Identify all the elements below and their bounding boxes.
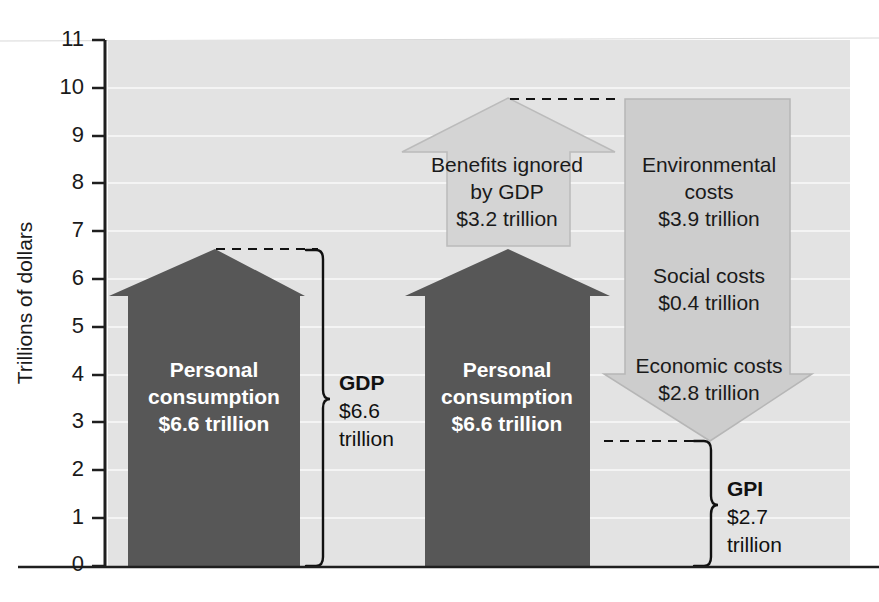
gdp-brace-title: GDP	[339, 371, 385, 394]
environmental-costs-line3: $3.9 trillion	[658, 207, 760, 230]
y-axis-title: Trillions of dollars	[13, 222, 36, 385]
social-costs-line1: Social costs	[653, 264, 765, 287]
y-tick-3: 3	[72, 408, 84, 433]
y-tick-11: 11	[61, 26, 84, 51]
gpi-brace-line1: $2.7	[727, 505, 768, 528]
bar1-label-line2: consumption	[148, 385, 280, 408]
y-tick-1: 1	[72, 504, 84, 529]
benefits-label-line2: by GDP	[470, 180, 544, 203]
bar2-label-line3: $6.6 trillion	[452, 412, 563, 435]
bar2-label-line2: consumption	[441, 385, 573, 408]
chart-svg: Personal consumption $6.6 trillion Perso…	[0, 0, 879, 602]
environmental-costs-line2: costs	[684, 180, 733, 203]
benefits-label-line3: $3.2 trillion	[456, 207, 558, 230]
benefits-label-line1: Benefits ignored	[431, 153, 583, 176]
environmental-costs-line1: Environmental	[642, 153, 776, 176]
gdp-gpi-figure: Personal consumption $6.6 trillion Perso…	[0, 0, 879, 602]
gdp-brace-line1: $6.6	[339, 399, 380, 422]
y-tick-4: 4	[72, 361, 84, 386]
social-costs-line2: $0.4 trillion	[658, 291, 760, 314]
economic-costs-line2: $2.8 trillion	[658, 381, 760, 404]
y-tick-0: 0	[72, 551, 84, 576]
bar1-label-line3: $6.6 trillion	[159, 412, 270, 435]
economic-costs-line1: Economic costs	[635, 354, 782, 377]
y-tick-5: 5	[72, 313, 84, 338]
gpi-brace-title: GPI	[727, 477, 763, 500]
y-tick-2: 2	[72, 456, 84, 481]
y-tick-10: 10	[60, 74, 84, 99]
gdp-brace-line2: trillion	[339, 427, 394, 450]
y-tick-9: 9	[72, 122, 84, 147]
y-tick-6: 6	[72, 265, 84, 290]
bar2-label-line1: Personal	[463, 358, 552, 381]
gpi-brace-line2: trillion	[727, 533, 782, 556]
y-tick-8: 8	[72, 169, 84, 194]
y-tick-7: 7	[72, 217, 84, 242]
bar1-label-line1: Personal	[170, 358, 259, 381]
